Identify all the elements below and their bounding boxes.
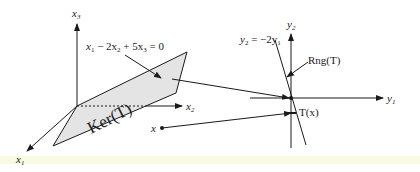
y1-axis-label: y1 [386,92,395,106]
plane-equation: x1 − 2x2 + 5x3 = 0 [85,40,165,54]
x3-axis-label: x3 [71,7,81,21]
range-line-equation: y2 = −2y1 [239,33,281,47]
kernel-to-origin-arrow [172,79,289,98]
x-to-image-arrow [162,113,291,128]
range-label: Rng(T) [308,54,341,67]
linear-transformation-diagram: Ker(T) x1 − 2x2 + 5x3 = 0 x3 x2 x1 y2 y1… [0,0,420,172]
x2-axis-label: x2 [185,100,195,114]
kernel-plane [53,52,187,146]
y2-axis-label: y2 [286,18,296,32]
point-x-label: x [150,122,156,134]
image-label: T(x) [299,106,319,119]
origin-point [289,96,293,100]
range-pointer-arrow [287,62,308,77]
x1-axis-label: x1 [15,153,24,167]
diagram-canvas: Ker(T) x1 − 2x2 + 5x3 = 0 x3 x2 x1 y2 y1… [0,0,420,172]
